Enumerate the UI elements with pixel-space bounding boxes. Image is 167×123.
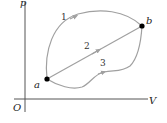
point-b: b (139, 15, 152, 29)
path-3-label: 3 (100, 58, 106, 68)
path-1: 1 (46, 11, 142, 79)
point-a: a (34, 76, 50, 90)
path-2-label: 2 (84, 41, 90, 51)
path-1-label: 1 (61, 12, 67, 22)
pv-diagram: p V O 1 2 3 a b (0, 0, 167, 123)
point-a-label: a (34, 79, 40, 90)
path-3: 3 (47, 26, 142, 88)
v-axis-label: V (149, 95, 158, 106)
point-b-label: b (146, 15, 152, 26)
p-axis-label: p (20, 0, 27, 8)
origin-label: O (13, 102, 21, 113)
path-2: 2 (47, 26, 142, 79)
